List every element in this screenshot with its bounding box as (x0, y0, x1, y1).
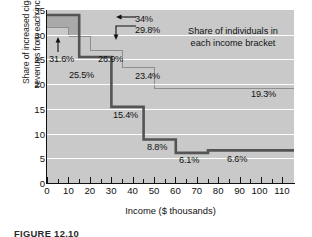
label-31-6: 31.6% (49, 54, 74, 64)
arrow-to-31-6-icon (53, 36, 63, 53)
x-tick-60: 60 (163, 186, 187, 196)
label-29-8: 29.8% (135, 25, 160, 35)
label-19-3: 19.3% (251, 89, 276, 99)
label-23-4: 23.4% (135, 71, 160, 81)
x-tick-0: 0 (35, 186, 59, 196)
label-6-1: 6.1% (179, 155, 199, 165)
y-tick-20: 20 (25, 80, 45, 90)
label-25-5: 25.5% (69, 70, 94, 80)
arrow-to-29-8-icon (111, 24, 137, 40)
individuals-bracket-annotation: Share of individuals in each income brac… (175, 26, 291, 49)
label-26-9: 26.9% (98, 54, 123, 64)
y-axis-line (46, 10, 47, 184)
y-axis-tick-labels: 35 30 25 20 15 10 5 0 (20, 0, 45, 193)
x-tick-70: 70 (185, 186, 209, 196)
x-tick-30: 30 (99, 186, 123, 196)
x-tick-40: 40 (121, 186, 145, 196)
x-tick-100: 100 (248, 186, 272, 196)
plot-area: 31.6% 25.5% 26.9% 23.4% 15.4% 8.8% 6.1% … (47, 10, 294, 183)
x-tick-110: 110 (270, 186, 294, 196)
y-tick-30: 30 (25, 31, 45, 41)
label-15-4: 15.4% (113, 110, 138, 120)
x-tick-20: 20 (78, 186, 102, 196)
figure-caption: FIGURE 12.10 (14, 228, 79, 237)
x-tick-80: 80 (206, 186, 230, 196)
label-8-8: 8.8% (147, 142, 167, 152)
x-axis-line (46, 183, 295, 184)
figure-cigarette-tax-incidence: Share of increased cigarette tax revenue… (0, 0, 312, 237)
x-tick-10: 10 (56, 186, 80, 196)
label-6-6: 6.6% (227, 154, 247, 164)
label-34: 34% (135, 14, 153, 24)
y-tick-25: 25 (25, 55, 45, 65)
y-tick-5: 5 (25, 154, 45, 164)
y-tick-35: 35 (25, 6, 45, 16)
x-axis-title: Income ($ thousands) (47, 205, 294, 216)
y-tick-10: 10 (25, 130, 45, 140)
x-tick-50: 50 (142, 186, 166, 196)
y-tick-15: 15 (25, 105, 45, 115)
